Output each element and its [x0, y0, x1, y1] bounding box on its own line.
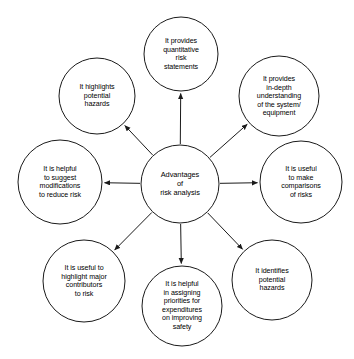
risk-analysis-diagram: It provides quantitative risk statements…: [0, 0, 354, 359]
node-circle-major-contributors[interactable]: [43, 240, 125, 322]
node-circle-assigning-priorities[interactable]: [142, 266, 222, 346]
node-circle-quantitative-risk-statements[interactable]: [144, 17, 218, 91]
node-circle-suggest-modifications[interactable]: [18, 140, 102, 224]
node-circle-in-depth-understanding[interactable]: [239, 56, 319, 136]
connector-arrow-in-depth-understanding: [210, 124, 247, 157]
node-circle-highlights-potential-hazards[interactable]: [59, 58, 135, 134]
node-circle-center[interactable]: [141, 145, 219, 223]
connector-arrow-major-contributors: [115, 212, 152, 250]
diagram-canvas-svg: [0, 0, 354, 359]
connector-arrow-identifies-potential-hazards: [208, 213, 243, 249]
node-circle-identifies-potential-hazards[interactable]: [232, 240, 312, 320]
connector-arrow-highlights-potential-hazards: [125, 125, 153, 154]
connector-arrow-suggest-modifications: [104, 183, 140, 184]
connector-arrow-comparisons-of-risks: [220, 183, 258, 184]
connector-arrow-assigning-priorities: [181, 224, 182, 264]
node-circles-group: [18, 17, 342, 346]
node-circle-comparisons-of-risks[interactable]: [260, 141, 342, 223]
